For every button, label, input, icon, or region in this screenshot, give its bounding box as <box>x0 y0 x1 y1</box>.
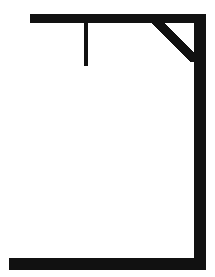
right-post <box>194 14 206 270</box>
rope-stub <box>84 23 88 66</box>
base-beam <box>9 258 206 270</box>
gallows-drawing <box>0 0 215 277</box>
gallows-figure: Hangman Gallows Line drawing of a gallow… <box>0 0 215 277</box>
top-beam <box>30 14 206 23</box>
